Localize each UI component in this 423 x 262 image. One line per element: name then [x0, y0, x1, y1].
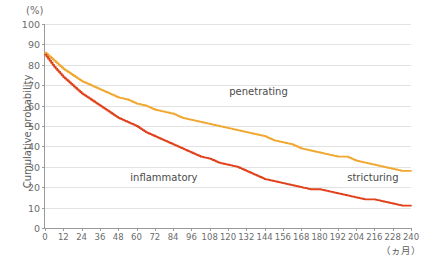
x-tick-label-132: 132: [238, 232, 254, 242]
y-tick-label-30: 30: [28, 161, 40, 172]
plot-area: 0102030405060708090100012243648607284961…: [44, 24, 411, 229]
x-tick-label-96: 96: [186, 232, 197, 242]
x-tick-label-192: 192: [330, 232, 346, 242]
x-tick-mark-144: [265, 228, 266, 231]
x-tick-label-108: 108: [202, 232, 218, 242]
series-label-penetrating: penetrating: [229, 86, 288, 97]
x-tick-mark-36: [100, 228, 101, 231]
x-tick-label-48: 48: [113, 232, 124, 242]
x-tick-label-228: 228: [385, 232, 401, 242]
y-tick-label-100: 100: [22, 19, 40, 30]
x-tick-label-36: 36: [94, 232, 105, 242]
annotations-layer: penetratinginflammatorystricturing: [45, 24, 411, 228]
x-tick-label-240: 240: [403, 232, 419, 242]
y-axis-unit-label: (%): [26, 5, 43, 16]
x-tick-label-84: 84: [168, 232, 179, 242]
x-tick-mark-12: [63, 228, 64, 231]
x-tick-mark-180: [320, 228, 321, 231]
x-tick-label-156: 156: [275, 232, 291, 242]
x-tick-label-180: 180: [311, 232, 327, 242]
x-tick-mark-120: [228, 228, 229, 231]
x-tick-mark-192: [338, 228, 339, 231]
y-tick-label-60: 60: [28, 100, 40, 111]
x-tick-mark-48: [118, 228, 119, 231]
y-tick-label-80: 80: [28, 59, 40, 70]
x-tick-label-60: 60: [131, 232, 142, 242]
x-tick-mark-228: [393, 228, 394, 231]
x-tick-mark-168: [301, 228, 302, 231]
y-tick-label-20: 20: [28, 182, 40, 193]
y-tick-label-50: 50: [28, 121, 40, 132]
x-tick-mark-24: [82, 228, 83, 231]
x-tick-mark-240: [411, 228, 412, 231]
x-tick-label-72: 72: [149, 232, 160, 242]
x-tick-mark-60: [137, 228, 138, 231]
y-tick-label-0: 0: [34, 223, 40, 234]
y-tick-label-70: 70: [28, 80, 40, 91]
chart-screenshot: (%) Cumulative probability 0102030405060…: [0, 0, 423, 262]
x-tick-mark-108: [210, 228, 211, 231]
x-tick-label-168: 168: [293, 232, 309, 242]
y-tick-label-90: 90: [28, 39, 40, 50]
x-tick-label-144: 144: [256, 232, 272, 242]
x-tick-mark-72: [155, 228, 156, 231]
x-axis-unit-label: （ヵ月）: [381, 243, 421, 257]
x-tick-label-120: 120: [220, 232, 236, 242]
x-tick-label-216: 216: [366, 232, 382, 242]
x-tick-label-12: 12: [58, 232, 69, 242]
x-tick-mark-216: [374, 228, 375, 231]
x-tick-mark-132: [246, 228, 247, 231]
y-tick-label-10: 10: [28, 202, 40, 213]
x-tick-mark-96: [191, 228, 192, 231]
x-tick-label-0: 0: [42, 232, 47, 242]
x-tick-mark-84: [173, 228, 174, 231]
series-label-inflammatory: inflammatory: [130, 172, 197, 183]
x-tick-label-204: 204: [348, 232, 364, 242]
series-label-stricturing: stricturing: [347, 172, 398, 183]
x-tick-mark-204: [356, 228, 357, 231]
x-tick-mark-0: [45, 228, 46, 231]
x-tick-label-24: 24: [76, 232, 87, 242]
y-tick-label-40: 40: [28, 141, 40, 152]
x-tick-mark-156: [283, 228, 284, 231]
